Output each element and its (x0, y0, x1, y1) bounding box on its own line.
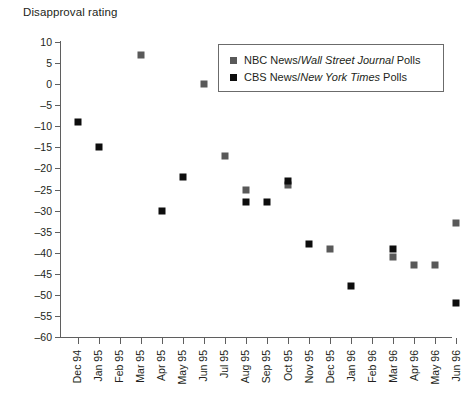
data-point (432, 262, 439, 269)
y-tick-label: –55 (6, 311, 52, 321)
x-tick-label: Nov 95 (304, 350, 315, 383)
data-point (390, 245, 397, 252)
data-point (285, 178, 292, 185)
x-tick-label: May 96 (430, 350, 441, 384)
x-tick-label: Apr 96 (409, 350, 420, 381)
y-axis-tick-labels: 1050–5–10–15–20–25–30–35–40–45–50–55–60 (0, 0, 52, 400)
y-tick-label: –10 (6, 121, 52, 131)
x-tick (393, 338, 394, 344)
data-point (390, 253, 397, 260)
data-point (137, 51, 144, 58)
y-tick-label: –30 (6, 206, 52, 216)
data-point (453, 220, 460, 227)
data-point (327, 245, 334, 252)
x-tick (78, 338, 79, 344)
data-point (179, 173, 186, 180)
data-point (158, 207, 165, 214)
y-tick (55, 337, 61, 338)
data-point (242, 199, 249, 206)
y-tick-label: –15 (6, 142, 52, 152)
x-tick-label: Feb 96 (367, 350, 378, 383)
data-point (95, 144, 102, 151)
x-tick (162, 338, 163, 344)
x-tick (309, 338, 310, 344)
y-tick-label: –60 (6, 332, 52, 342)
x-tick (456, 338, 457, 344)
legend-label-nbc: NBC News/Wall Street Journal Polls (244, 54, 420, 66)
x-tick (372, 338, 373, 344)
data-point (453, 300, 460, 307)
legend-swatch-nbc-icon (230, 57, 237, 64)
x-tick-label: Jul 95 (219, 350, 230, 378)
data-point (242, 186, 249, 193)
x-tick (288, 338, 289, 344)
legend-entry-cbs: CBS News/New York Times Polls (230, 71, 407, 83)
x-tick-label: Dec 94 (72, 350, 83, 383)
x-tick-label: May 95 (177, 350, 188, 384)
x-tick (330, 338, 331, 344)
x-tick-label: Aug 95 (240, 350, 251, 383)
data-point (200, 81, 207, 88)
x-tick-label: Jun 95 (198, 350, 209, 382)
x-tick (141, 338, 142, 344)
data-point (221, 152, 228, 159)
x-tick-label: Sep 95 (261, 350, 272, 383)
data-point (74, 119, 81, 126)
disapproval-rating-chart: Disapproval rating 1050–5–10–15–20–25–30… (0, 0, 463, 400)
x-tick-label: Mar 96 (388, 350, 399, 383)
x-tick-label: Feb 95 (114, 350, 125, 383)
x-tick-label: Apr 95 (156, 350, 167, 381)
y-tick-label: 10 (6, 37, 52, 47)
x-tick (183, 338, 184, 344)
x-tick (351, 338, 352, 344)
y-tick-label: 0 (6, 79, 52, 89)
y-tick-label: –25 (6, 185, 52, 195)
x-tick-label: Jun 96 (451, 350, 462, 382)
x-tick-label: Dec 95 (325, 350, 336, 383)
y-tick-label: –20 (6, 163, 52, 173)
legend-label-cbs: CBS News/New York Times Polls (244, 71, 407, 83)
x-tick (99, 338, 100, 344)
y-tick-label: 5 (6, 58, 52, 68)
x-tick (246, 338, 247, 344)
y-tick-label: –5 (6, 100, 52, 110)
data-point (411, 262, 418, 269)
data-point (306, 241, 313, 248)
legend-entry-nbc: NBC News/Wall Street Journal Polls (230, 54, 420, 66)
y-tick-label: –50 (6, 290, 52, 300)
x-tick-label: Jan 96 (346, 350, 357, 382)
data-point (263, 199, 270, 206)
x-tick (414, 338, 415, 344)
x-tick-label: Jan 95 (93, 350, 104, 382)
x-tick (204, 338, 205, 344)
x-tick (267, 338, 268, 344)
y-tick-label: –35 (6, 227, 52, 237)
legend-swatch-cbs-icon (230, 74, 237, 81)
x-tick-label: Mar 95 (135, 350, 146, 383)
x-tick (225, 338, 226, 344)
x-tick (120, 338, 121, 344)
y-tick-label: –45 (6, 269, 52, 279)
data-point (348, 283, 355, 290)
x-tick (435, 338, 436, 344)
y-tick-label: –40 (6, 248, 52, 258)
x-tick-label: Oct 95 (283, 350, 294, 381)
chart-legend: NBC News/Wall Street Journal Polls CBS N… (218, 44, 444, 92)
